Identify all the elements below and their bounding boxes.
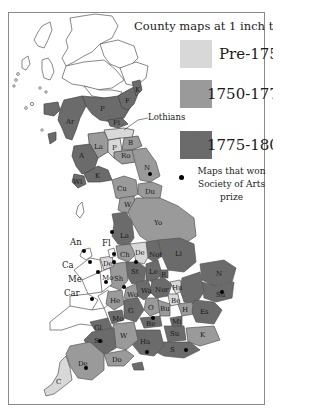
svg-text:Es: Es <box>200 308 209 316</box>
svg-text:K: K <box>135 86 141 94</box>
svg-text:S: S <box>170 346 175 354</box>
prize-label-line2: Society of Arts prize <box>190 178 273 204</box>
svg-text:Mi: Mi <box>172 318 182 326</box>
county-cornwall <box>44 356 72 396</box>
svg-text:Wa: Wa <box>141 287 152 295</box>
svg-text:F: F <box>125 97 130 105</box>
svg-text:C: C <box>56 378 61 386</box>
svg-text:W: W <box>124 201 132 209</box>
lothians-label: Lothians <box>148 112 185 122</box>
svg-text:Sh: Sh <box>114 275 124 283</box>
svg-text:A: A <box>78 152 85 160</box>
svg-text:Li: Li <box>175 250 183 258</box>
svg-text:Wo: Wo <box>127 291 138 299</box>
svg-text:Not: Not <box>149 251 162 259</box>
svg-text:Bu: Bu <box>160 305 170 313</box>
svg-text:De: De <box>103 260 113 268</box>
legend-label-1750-1775: 1750-1775 <box>207 85 273 103</box>
svg-text:K: K <box>200 331 206 339</box>
prize-legend-text: Maps that won Society of Arts prize <box>190 165 273 204</box>
svg-text:Su: Su <box>170 330 180 338</box>
svg-text:N: N <box>144 164 150 172</box>
svg-text:W: W <box>120 332 128 340</box>
svg-text:Car: Car <box>64 288 81 298</box>
svg-text:Ro: Ro <box>121 152 131 160</box>
legend-swatch-pre1750 <box>180 40 212 68</box>
prize-label-line1: Maps that won <box>190 165 273 178</box>
svg-text:H: H <box>182 306 188 314</box>
map-title: County maps at 1 inch to 1 mile <box>134 19 273 33</box>
county-cambridge <box>180 272 204 304</box>
svg-text:Fi: Fi <box>113 119 121 127</box>
svg-text:Gl: Gl <box>94 324 103 332</box>
island-islay <box>48 132 56 144</box>
svg-text:Mo: Mo <box>102 274 113 282</box>
svg-text:B: B <box>128 139 133 147</box>
svg-text:Fl: Fl <box>102 238 111 248</box>
svg-text:La: La <box>120 232 129 240</box>
svg-text:Do: Do <box>112 356 122 364</box>
svg-text:Me: Me <box>68 274 82 284</box>
svg-text:Yo: Yo <box>153 219 162 227</box>
svg-text:Wi: Wi <box>73 178 83 186</box>
svg-text:O: O <box>148 304 154 312</box>
svg-text:N: N <box>216 270 222 278</box>
svg-text:An: An <box>69 237 82 247</box>
legend-label-1775-1800: 1775-1800 <box>207 136 273 154</box>
svg-text:De: De <box>135 249 145 257</box>
svg-text:G: G <box>128 307 134 315</box>
svg-text:Hu: Hu <box>172 284 183 292</box>
prize-dot-icon <box>179 175 184 180</box>
svg-text:La: La <box>94 143 103 151</box>
svg-text:Ar: Ar <box>65 118 75 126</box>
svg-text:Cu: Cu <box>117 185 127 193</box>
svg-text:P: P <box>100 105 105 113</box>
svg-text:Ca: Ca <box>62 260 74 270</box>
isle-of-man <box>76 202 84 218</box>
island-mull <box>44 102 60 116</box>
svg-text:K: K <box>95 172 101 180</box>
svg-text:He: He <box>110 297 120 305</box>
svg-text:Be: Be <box>171 297 180 305</box>
svg-text:Ha: Ha <box>140 338 150 346</box>
legend-label-pre1750: Pre-1750 <box>219 45 273 63</box>
svg-text:Du: Du <box>145 188 156 196</box>
svg-text:R: R <box>161 271 167 279</box>
svg-text:Ch: Ch <box>120 251 130 259</box>
isle-of-wight <box>132 362 144 370</box>
svg-text:Be: Be <box>146 320 155 328</box>
svg-text:Mo: Mo <box>112 315 123 323</box>
svg-text:Nor: Nor <box>155 286 169 294</box>
svg-text:P: P <box>112 144 117 152</box>
svg-text:Le: Le <box>149 268 158 276</box>
svg-text:St: St <box>131 268 139 276</box>
